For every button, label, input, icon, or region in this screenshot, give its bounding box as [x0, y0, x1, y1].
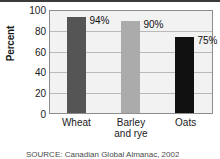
- bar-barley-and-rye: 90%: [121, 21, 140, 113]
- bar-value-label: 75%: [197, 35, 217, 46]
- y-tick-label: 40: [18, 67, 46, 78]
- x-label-line1: Barley: [117, 117, 145, 128]
- y-tick-label: 100: [18, 5, 46, 16]
- y-tick-label: 0: [18, 109, 46, 120]
- y-tick-label: 80: [18, 25, 46, 36]
- x-label-oats: Oats: [158, 117, 213, 139]
- top-divider-rule: [0, 0, 220, 2]
- y-tick-label: 20: [18, 88, 46, 99]
- x-label-wheat: Wheat: [49, 117, 104, 139]
- x-label-line1: Oats: [175, 117, 196, 128]
- y-tick-label: 60: [18, 46, 46, 57]
- bar-chart-figure: Percent 100 80 60 40 20 0 94% 90%: [0, 0, 220, 159]
- source-note: SOURCE: Canadian Global Almanac, 2002: [26, 150, 179, 159]
- bar-slot: 75%: [158, 11, 212, 113]
- y-axis-tick-labels: 100 80 60 40 20 0: [18, 10, 46, 114]
- x-axis-category-labels: Wheat Barley and rye Oats: [49, 117, 213, 139]
- x-label-line2: and rye: [104, 128, 159, 139]
- bar-wheat: 94%: [67, 17, 86, 113]
- x-label-barley-and-rye: Barley and rye: [104, 117, 159, 139]
- y-axis-title: Percent: [5, 16, 16, 72]
- bar-oats: 75%: [175, 37, 194, 114]
- bar-slot: 94%: [50, 11, 104, 113]
- bar-slot: 90%: [104, 11, 158, 113]
- plot-area: 94% 90% 75%: [49, 10, 213, 114]
- x-label-line1: Wheat: [62, 117, 91, 128]
- bar-series: 94% 90% 75%: [50, 11, 212, 113]
